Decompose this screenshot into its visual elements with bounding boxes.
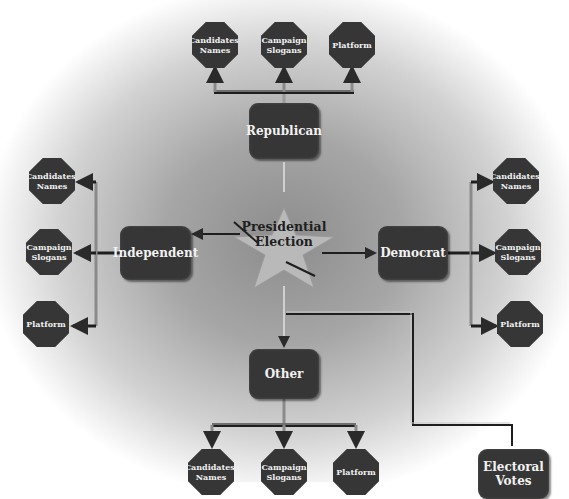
oct-line2: Names — [185, 472, 238, 482]
center-label-line1: Presidential — [234, 219, 334, 234]
oct-line1: Campaign — [26, 242, 71, 252]
oct-line2: Slogans — [261, 45, 306, 55]
electoral-votes-node: Electoral Votes — [478, 449, 549, 499]
democrat-node: Democrat — [378, 226, 448, 280]
republican-label: Republican — [246, 124, 322, 138]
electoral-label-line1: Electoral — [483, 460, 544, 474]
center-label-line2: Election — [234, 234, 334, 249]
independent-node: Independent — [120, 226, 191, 280]
oct-line1: Campaign — [261, 462, 306, 472]
oct-line1: Candidates' — [189, 35, 242, 45]
oct-line2: Names — [26, 181, 79, 191]
electoral-label-line2: Votes — [483, 474, 544, 488]
oct-line1: Campaign — [261, 35, 306, 45]
oct-line2: Names — [189, 45, 242, 55]
oct-line1: Campaign — [495, 242, 540, 252]
other-label: Other — [265, 367, 304, 381]
oct-line2: Names — [490, 181, 543, 191]
oct-line1: Platform — [500, 319, 539, 329]
democrat-label: Democrat — [380, 246, 446, 260]
oct-line2: Slogans — [495, 252, 540, 262]
oct-line1: Platform — [26, 319, 65, 329]
oct-line2: Slogans — [261, 472, 306, 482]
other-node: Other — [249, 349, 319, 399]
center-node: Presidential Election — [234, 219, 334, 249]
republican-node: Republican — [249, 103, 319, 159]
oct-line1: Platform — [336, 467, 375, 477]
oct-line2: Slogans — [26, 252, 71, 262]
oct-line1: Candidates' — [185, 462, 238, 472]
oct-line1: Candidates' — [26, 171, 79, 181]
independent-label: Independent — [113, 246, 198, 260]
oct-line1: Candidates' — [490, 171, 543, 181]
oct-line1: Platform — [332, 40, 371, 50]
